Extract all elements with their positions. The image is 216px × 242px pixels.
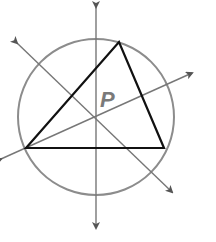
circumcenter-diagram: P [0,0,216,242]
circumcenter-label: P [100,87,115,112]
perpendicular-bisectors [1,7,192,228]
